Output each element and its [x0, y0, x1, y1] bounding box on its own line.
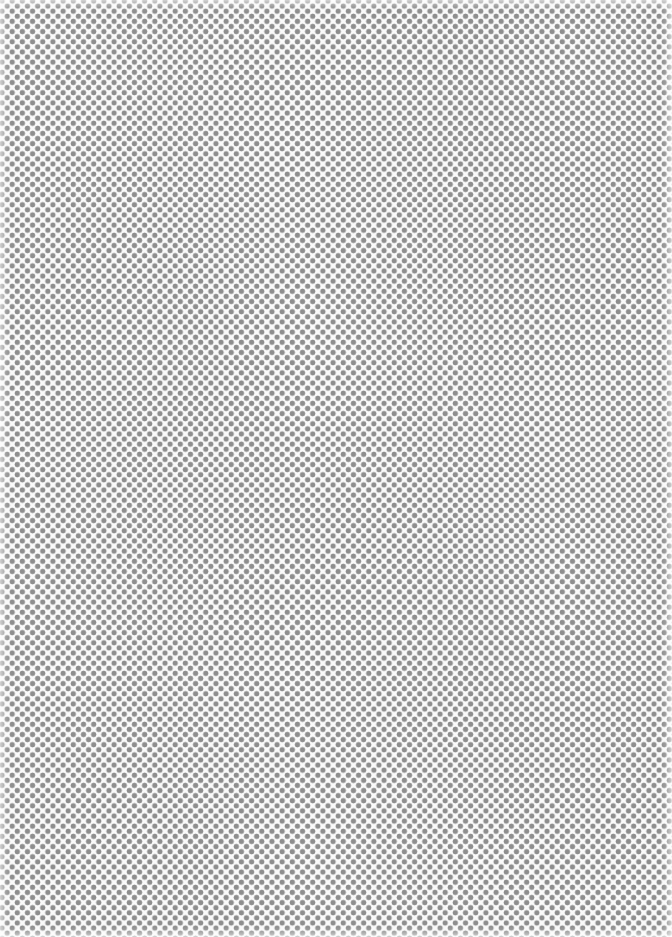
- polka-dot-texture: [0, 0, 672, 937]
